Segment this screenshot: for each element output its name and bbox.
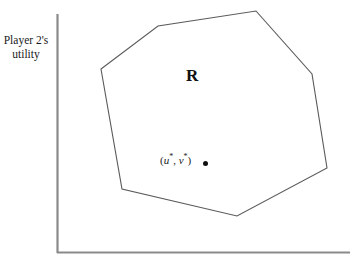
y-axis-label: Player 2's utility	[0, 33, 52, 61]
region-polygon-r	[101, 11, 327, 216]
bargaining-region-figure: Player 2's utility R (u*, v*)	[0, 0, 359, 264]
point-label-u-star-v-star: (u*, v*)	[160, 154, 191, 166]
point-label-close-paren: )	[188, 154, 192, 166]
plot-canvas	[0, 0, 359, 264]
point-marker-dot	[203, 161, 208, 166]
region-label-r: R	[186, 66, 198, 86]
